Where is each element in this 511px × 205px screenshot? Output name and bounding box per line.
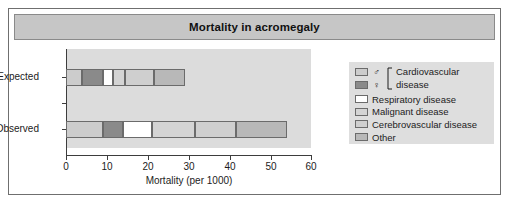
page-title: Mortality in acromegaly	[189, 21, 320, 33]
bar-segment-expected-cv_female	[82, 69, 102, 86]
legend-label-malignant: Malignant disease	[372, 106, 449, 117]
brace-icon	[386, 67, 394, 91]
x-tick-60	[311, 156, 312, 160]
bar-segment-observed-malignant	[152, 121, 195, 138]
legend-swatch-other	[355, 133, 368, 141]
legend-item-cardiovascular-female[interactable]: ♀	[355, 79, 381, 92]
male-symbol-icon: ♂	[372, 67, 381, 77]
x-tick-label-50: 50	[265, 161, 276, 172]
legend-swatch-cerebrovascular	[355, 120, 368, 128]
x-tick-label-30: 30	[183, 161, 194, 172]
bar-segment-expected-malignant	[113, 69, 125, 86]
x-tick-label-10: 10	[101, 161, 112, 172]
legend-label-respiratory: Respiratory disease	[372, 94, 456, 105]
female-symbol-icon: ♀	[372, 80, 381, 90]
x-tick-label-60: 60	[305, 161, 316, 172]
figure-panel: Mortality in acromegaly Expected Observe…	[8, 8, 501, 195]
y-tick-label-expected: Expected	[0, 71, 39, 82]
chart-legend: ♂ ♀ Cardiovascular disease Respiratory d…	[349, 62, 494, 144]
legend-item-cardiovascular-male[interactable]: ♂	[355, 66, 381, 79]
legend-swatch-cardiovascular-female	[355, 81, 368, 89]
chart-title-bar: Mortality in acromegaly	[14, 14, 495, 40]
legend-label-cerebrovascular: Cerebrovascular disease	[372, 119, 477, 130]
bar-segment-expected-cerebro	[125, 69, 154, 86]
x-axis-label: Mortality (per 1000)	[66, 175, 312, 186]
bar-segment-observed-cv_male	[66, 121, 103, 138]
legend-label-cardiovascular-line2: disease	[396, 79, 429, 90]
bar-segment-observed-other	[236, 121, 287, 138]
x-tick-20	[148, 156, 149, 160]
x-tick-0	[66, 156, 67, 160]
legend-swatch-cardiovascular-male	[355, 68, 368, 76]
bar-segment-expected-other	[154, 69, 185, 86]
bar-segment-observed-respiratory	[123, 121, 152, 138]
x-tick-40	[230, 156, 231, 160]
legend-items-list: Respiratory disease Malignant disease Ce…	[355, 93, 477, 143]
legend-item-other[interactable]: Other	[355, 131, 477, 144]
legend-swatch-malignant	[355, 108, 368, 116]
bar-segment-observed-cerebro	[195, 121, 236, 138]
x-tick-50	[271, 156, 272, 160]
legend-label-other: Other	[372, 132, 396, 143]
x-tick-label-40: 40	[224, 161, 235, 172]
y-tick-label-observed: Observed	[0, 123, 39, 134]
x-tick-label-0: 0	[63, 161, 69, 172]
x-tick-10	[107, 156, 108, 160]
legend-item-cerebrovascular[interactable]: Cerebrovascular disease	[355, 118, 477, 131]
x-tick-30	[189, 156, 190, 160]
bar-segment-expected-respiratory	[103, 69, 113, 86]
bar-segment-expected-cv_male	[66, 69, 82, 86]
legend-swatch-respiratory	[355, 95, 368, 103]
bar-segment-observed-cv_female	[103, 121, 123, 138]
legend-group-cardiovascular: ♂ ♀ Cardiovascular disease	[355, 66, 494, 92]
y-tick-middle	[62, 103, 66, 104]
y-axis-line	[66, 49, 67, 156]
legend-item-respiratory[interactable]: Respiratory disease	[355, 93, 477, 106]
legend-item-malignant[interactable]: Malignant disease	[355, 106, 477, 119]
x-tick-label-20: 20	[142, 161, 153, 172]
legend-label-cardiovascular-line1: Cardiovascular	[396, 66, 459, 77]
